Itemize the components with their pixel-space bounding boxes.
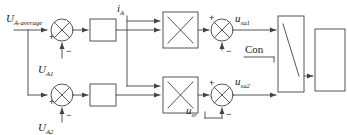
multiplier-top-shape	[163, 12, 198, 48]
block-diagram-canvas: UA-average UA1 UA2 iA usa1 usa2 usr Con …	[0, 0, 347, 135]
comparator-block-shape	[278, 16, 304, 92]
sign-bottom-output-minus: −	[226, 110, 231, 119]
sign-top-output-minus: −	[226, 47, 231, 56]
summing-junction-top	[51, 19, 73, 41]
wire-usr-to-output-sum-bottom	[205, 108, 222, 118]
sign-bottom-sum-plus: +	[49, 98, 54, 107]
gain-block-bottom-shape	[90, 84, 116, 106]
label-output-usa2: usa2	[235, 76, 250, 90]
sign-bottom-sum-minus: −	[66, 111, 71, 120]
summing-junction-bottom	[51, 84, 73, 106]
sign-top-sum-plus: +	[49, 33, 54, 42]
label-signal-usr: usr	[186, 105, 197, 119]
sign-bottom-output-plus: +	[209, 79, 214, 88]
label-output-usa1: usa1	[235, 13, 250, 27]
summing-junction-output-top	[211, 19, 233, 41]
label-current-ia: iA	[117, 3, 124, 17]
summing-junction-output-bottom	[211, 84, 233, 106]
gain-block-top-shape	[90, 19, 116, 41]
label-reference-signal: UA-average	[6, 13, 42, 27]
label-feedback-ua2: UA2	[38, 122, 54, 135]
sign-top-output-plus: +	[209, 14, 214, 23]
label-control-con: Con	[245, 44, 263, 55]
wire-ia-trunk	[127, 16, 160, 86]
output-block-shape	[315, 29, 345, 91]
sign-top-sum-minus: −	[66, 47, 71, 56]
label-feedback-ua1: UA1	[38, 64, 54, 78]
